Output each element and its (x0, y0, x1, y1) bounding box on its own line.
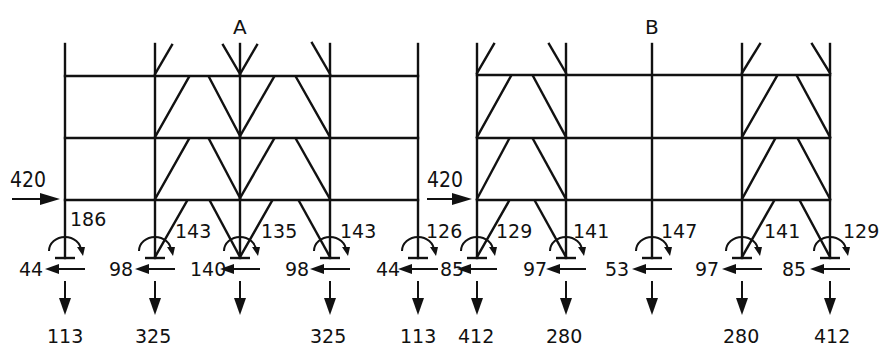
moment-value: 141 (764, 220, 800, 242)
frame-b-title: B (645, 15, 659, 39)
horizontal-reaction-value: 85 (782, 258, 806, 280)
vertical-reaction-value: 280 (546, 325, 582, 347)
moment-value: 129 (496, 220, 532, 242)
support-a2: 143 98 325 (109, 220, 211, 347)
frame-a-title: A (233, 15, 247, 39)
brace (209, 139, 240, 198)
moment-value: 147 (661, 220, 697, 242)
brace (296, 77, 330, 137)
brace (742, 139, 775, 199)
brace (155, 77, 189, 137)
horizontal-reaction-value: 98 (285, 258, 309, 280)
brace (477, 76, 511, 137)
brace-stub (223, 45, 240, 74)
moment-value: 143 (340, 220, 376, 242)
lateral-load-value: 420 (427, 168, 463, 192)
brace (533, 139, 566, 199)
brace (240, 139, 274, 198)
support-a1: 186 44 113 (19, 208, 106, 347)
moment-value: 141 (573, 220, 609, 242)
brace (742, 76, 777, 137)
brace (296, 139, 330, 199)
horizontal-reaction-value: 97 (695, 258, 719, 280)
vertical-reaction-value: 113 (47, 325, 83, 347)
vertical-reaction-value: 412 (814, 325, 850, 347)
braced-frame-diagram: A 420 (0, 0, 885, 351)
brace (477, 139, 509, 199)
vertical-reaction-value: 113 (400, 325, 436, 347)
horizontal-reaction-value: 44 (19, 258, 43, 280)
moment-value: 135 (261, 220, 297, 242)
vertical-reaction-value: 325 (135, 325, 171, 347)
arrow-right-icon (452, 193, 472, 205)
brace (155, 139, 189, 199)
brace-stub (312, 43, 330, 74)
brace-stub (549, 44, 566, 73)
arrow-right-icon (40, 193, 60, 205)
horizontal-reaction-value: 97 (523, 258, 547, 280)
brace (797, 76, 830, 137)
brace-stub (155, 45, 172, 74)
brace (240, 77, 274, 136)
lateral-load-value: 420 (10, 168, 46, 192)
lateral-load-a: 420 (10, 168, 60, 205)
horizontal-reaction-value: 85 (440, 258, 464, 280)
support-b4: 141 97 280 (695, 220, 800, 347)
brace (798, 139, 830, 199)
horizontal-reaction-value: 44 (376, 258, 400, 280)
horizontal-reaction-value: 53 (605, 258, 629, 280)
vertical-reaction-value: 280 (723, 325, 759, 347)
lateral-load-b: 420 (427, 168, 472, 205)
moment-value: 129 (843, 220, 879, 242)
brace-stub (477, 44, 494, 73)
vertical-reaction-value: 325 (310, 325, 346, 347)
moment-value: 143 (175, 220, 211, 242)
brace (209, 77, 240, 136)
brace-stub (742, 44, 760, 73)
horizontal-reaction-value: 98 (109, 258, 133, 280)
brace (533, 76, 566, 137)
moment-value: 126 (426, 220, 462, 242)
horizontal-reaction-value: 140 (190, 258, 226, 280)
brace-stub (240, 45, 257, 74)
moment-value: 186 (70, 208, 106, 230)
brace-stub (812, 44, 830, 73)
vertical-reaction-value: 412 (458, 325, 494, 347)
